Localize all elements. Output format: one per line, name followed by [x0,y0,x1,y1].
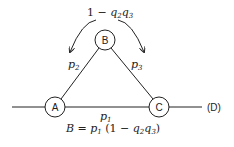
arrow-right-icon [118,20,144,52]
top-label: 1 − q2q3 [87,6,134,20]
node-a-label: A [52,102,59,113]
node-b-label: B [102,35,109,46]
arrow-left-icon [70,20,96,52]
edge-label-p3: p3 [131,58,143,72]
reliability-diagram: B A C 1 − q2q3 p2 p3 p1 (D) B = p1 (1 − … [0,0,234,147]
diagram-svg: B A C 1 − q2q3 p2 p3 p1 (D) B = p1 (1 − … [0,0,234,147]
edge-a-b [61,48,99,99]
edge-label-p2: p2 [68,58,80,72]
node-c-label: C [155,102,162,113]
end-label-d: (D) [207,102,221,113]
edge-b-c [111,48,153,99]
formula: B = p1 (1 − q2q3) [65,122,160,136]
